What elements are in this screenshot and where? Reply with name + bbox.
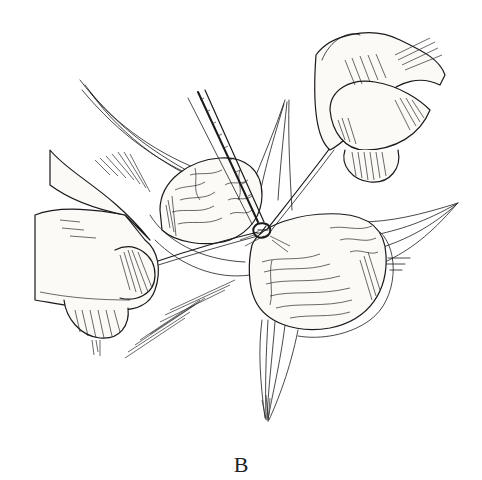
figure-label: B	[0, 452, 482, 478]
surgical-illustration	[0, 0, 482, 480]
tissue-mass-left	[160, 158, 262, 244]
line-drawing	[0, 0, 482, 480]
hand-holding-suture-left	[35, 150, 158, 356]
hand-holding-suture-right	[315, 33, 445, 182]
